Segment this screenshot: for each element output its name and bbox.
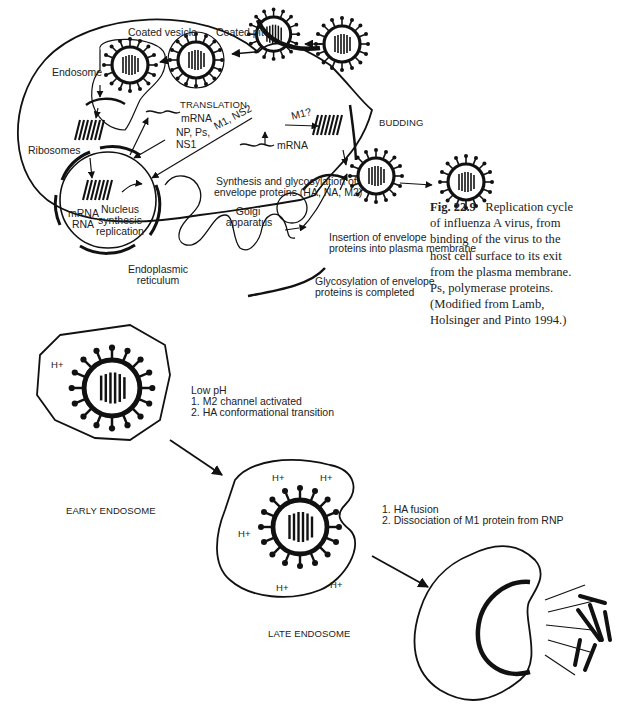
label-hplus-late-5: H+: [330, 579, 343, 590]
virus-early-endosome: [69, 345, 156, 432]
label-hplus-early: H+: [51, 359, 64, 370]
virus-endosome: [102, 37, 158, 93]
early-endosome-membrane: [37, 325, 170, 440]
caption-line-2: of influenza A virus, from: [430, 215, 630, 231]
influenza-replication-illustration: [0, 0, 633, 722]
label-coated-pit: Coated pit: [216, 27, 264, 38]
virus-late-endosome: [258, 485, 342, 569]
rnp-in-nucleus: [83, 180, 112, 200]
caption-line-1: Replication cycle: [485, 200, 573, 214]
label-budding: BUDDING: [379, 117, 424, 128]
label-np-ps: NP, Ps,: [176, 127, 210, 138]
label-ribosomes: Ribosomes: [28, 145, 81, 156]
late-endosome-steps: 1. HA fusion 2. Dissociation of M1 prote…: [382, 504, 563, 526]
caption-line-6: Ps, polymerase proteins.: [430, 280, 630, 296]
early-step-2: 2. HA conformational transition: [191, 407, 334, 418]
label-late-endosome: LATE ENDOSOME: [268, 628, 350, 639]
caption-line-4: host cell surface to its exit: [430, 248, 630, 264]
virus-extracellular: [314, 16, 370, 72]
figure-caption: Fig. 22.9 Replication cycle of influenza…: [430, 199, 630, 329]
label-early-endosome: EARLY ENDOSOME: [66, 505, 156, 516]
rnp-released: [75, 120, 104, 140]
caption-line-5: from the plasma membrane.: [430, 264, 630, 280]
fused-virus-envelope: [478, 582, 530, 674]
label-hplus-late-4: H+: [276, 582, 289, 593]
caption-line-7: (Modified from Lamb,: [430, 296, 630, 312]
label-hplus-late-2: H+: [320, 472, 333, 483]
label-glycosylation-line2: proteins is completed: [315, 287, 414, 298]
label-mrna-translation: mRNA: [181, 113, 212, 124]
label-hplus-late-3: H+: [238, 528, 251, 539]
label-coated-vesicle: Coated vesicle: [128, 27, 197, 38]
early-endosome-steps: Low pH 1. M2 channel activated 2. HA con…: [191, 385, 334, 418]
label-ns1: NS1: [176, 139, 196, 150]
label-endosome: Endosome: [52, 67, 102, 78]
endosome-outline: [92, 39, 166, 130]
label-nucleus-replication: replication: [94, 226, 146, 237]
label-reticulum: reticulum: [126, 275, 190, 286]
label-golgi-apparatus: apparatus: [224, 217, 274, 228]
late-step-2: 2. Dissociation of M1 protein from RNP: [382, 515, 563, 526]
caption-line-8: Holsinger and Pinto 1994.): [430, 312, 630, 328]
label-synthesis-line2: envelope proteins (HA, NA, M2): [214, 187, 362, 198]
label-mrna-cytoplasm: mRNA: [277, 140, 308, 151]
figure-number: Fig. 22.9: [430, 200, 476, 214]
rnp-cytoplasm: [313, 115, 342, 135]
label-hplus-late-1: H+: [272, 472, 285, 483]
caption-line-3: binding of the virus to the: [430, 231, 630, 247]
